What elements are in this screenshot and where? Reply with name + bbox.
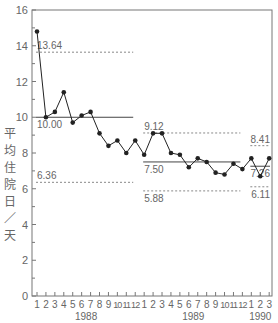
y-tick-label: 0 — [22, 290, 28, 302]
mean-label: 10.00 — [37, 119, 62, 130]
y-tick-label: 14 — [16, 40, 28, 52]
data-point — [178, 152, 183, 157]
data-point — [106, 144, 111, 149]
x-tick-label: 3 — [159, 299, 165, 310]
data-point — [70, 120, 75, 125]
x-tick-label: 8 — [97, 299, 103, 310]
data-point — [249, 156, 254, 161]
data-point — [240, 167, 245, 172]
y-axis: 0246810121416 — [16, 4, 36, 302]
x-tick-label: 1 — [249, 299, 255, 310]
data-point — [258, 174, 263, 179]
x-tick-label: 3 — [52, 299, 58, 310]
x-tick-label: 9 — [106, 299, 112, 310]
data-point — [187, 165, 192, 170]
data-point — [35, 29, 40, 34]
y-tick-label: 8 — [22, 147, 28, 159]
data-point — [115, 138, 120, 143]
x-tick-label: 2 — [150, 299, 156, 310]
x-tick-label: 10 — [220, 300, 229, 310]
x-tick-label: 7 — [195, 299, 201, 310]
data-point — [267, 156, 272, 161]
year-label: 1988 — [75, 311, 98, 322]
data-point — [169, 151, 174, 156]
data-point — [133, 138, 138, 143]
data-point — [88, 110, 93, 115]
x-tick-label: 10 — [113, 300, 122, 310]
data-series — [35, 29, 272, 178]
data-point — [213, 170, 218, 175]
ucl-label: 13.64 — [37, 40, 62, 51]
x-tick-label: 4 — [61, 299, 67, 310]
series-line — [37, 31, 269, 176]
data-point — [61, 90, 66, 95]
x-tick-label: 6 — [186, 299, 192, 310]
x-tick-label: 9 — [213, 299, 219, 310]
x-tick-label: 1 — [34, 299, 40, 310]
data-point — [79, 113, 84, 118]
data-point — [97, 131, 102, 136]
ucl-label: 8.41 — [251, 134, 271, 145]
x-tick-label: 3 — [266, 299, 272, 310]
mean-label: 7.50 — [144, 164, 164, 175]
data-point — [222, 172, 227, 177]
data-point — [204, 160, 209, 165]
plot-frame — [32, 10, 272, 296]
x-tick-label: 2 — [43, 299, 49, 310]
x-tick-label: 1 — [141, 299, 147, 310]
y-tick-label: 10 — [16, 111, 28, 123]
year-label: 1990 — [249, 311, 272, 322]
x-tick-label: 11 — [122, 300, 131, 310]
x-tick-label: 11 — [230, 300, 239, 310]
ucl-label: 9.12 — [144, 121, 164, 132]
data-point — [142, 152, 147, 157]
data-point — [53, 110, 58, 115]
x-tick-label: 7 — [88, 299, 94, 310]
data-point — [44, 115, 49, 120]
x-tick-label: 4 — [168, 299, 174, 310]
y-tick-label: 16 — [16, 4, 28, 16]
y-axis-label: 平均住院日／天 — [3, 126, 17, 245]
x-tick-label: 12 — [131, 300, 140, 310]
year-label: 1989 — [182, 311, 205, 322]
lcl-label: 5.88 — [144, 193, 164, 204]
y-tick-label: 12 — [16, 76, 28, 88]
control-chart: 0246810121416 12345678910111212345678910… — [0, 0, 278, 323]
y-tick-label: 6 — [22, 183, 28, 195]
data-point — [124, 151, 129, 156]
plot-border — [32, 10, 272, 296]
y-tick-label: 2 — [22, 254, 28, 266]
y-tick-label: 4 — [22, 219, 28, 231]
x-tick-label: 5 — [177, 299, 183, 310]
data-point — [160, 131, 165, 136]
lcl-label: 6.11 — [251, 189, 270, 200]
data-point — [195, 156, 200, 161]
x-tick-label: 5 — [70, 299, 76, 310]
x-tick-label: 6 — [79, 299, 85, 310]
x-tick-label: 2 — [257, 299, 263, 310]
x-tick-label: 8 — [204, 299, 210, 310]
data-point — [231, 161, 236, 166]
lcl-label: 6.36 — [37, 170, 57, 181]
x-tick-label: 12 — [238, 300, 247, 310]
data-point — [151, 131, 156, 136]
